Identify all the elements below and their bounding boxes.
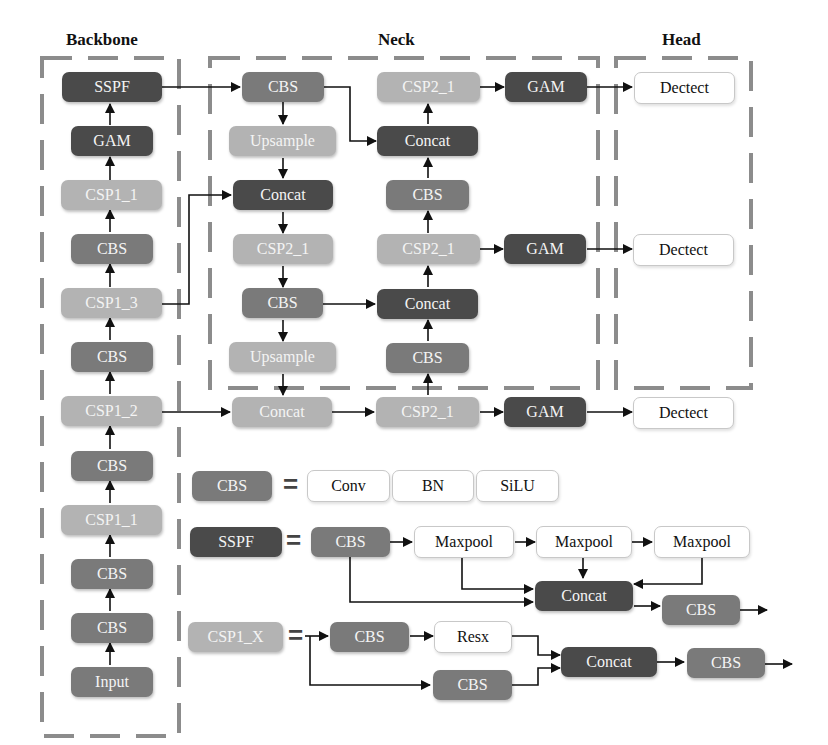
backbone-cbs-2: CBS xyxy=(71,451,153,481)
neck-cbs-right-top: CBS xyxy=(386,180,469,210)
backbone-cbs-3: CBS xyxy=(71,342,153,372)
neck-csp2-1-mid: CSP2_1 xyxy=(377,234,480,264)
head-detect-bottom: Dectect xyxy=(633,397,734,429)
legend-maxpool-1: Maxpool xyxy=(414,526,514,558)
neck-csp2-1-bottom: CSP2_1 xyxy=(376,397,479,427)
neck-cbs-top: CBS xyxy=(242,72,324,102)
legend-sspf-label: SSPF xyxy=(190,527,282,557)
backbone-title: Backbone xyxy=(66,30,138,50)
legend-cbs-label: CBS xyxy=(192,471,272,501)
neck-gam-mid: GAM xyxy=(504,234,586,264)
head-detect-top: Dectect xyxy=(634,72,735,104)
legend-maxpool-3: Maxpool xyxy=(654,526,750,558)
head-frame xyxy=(616,58,751,388)
neck-gam-top: GAM xyxy=(505,72,587,102)
legend-conv: Conv xyxy=(307,470,390,502)
backbone-csp1-1-top: CSP1_1 xyxy=(61,180,162,210)
legend-csp1x-cbs-bottom: CBS xyxy=(433,670,512,700)
neck-title: Neck xyxy=(378,30,415,50)
legend-csp1x-out-cbs: CBS xyxy=(687,648,765,678)
legend-csp1x-label: CSP1_X xyxy=(188,622,283,652)
neck-csp2-1-left: CSP2_1 xyxy=(233,234,333,264)
legend-sspf-equals: = xyxy=(286,525,301,556)
neck-csp2-1-top: CSP2_1 xyxy=(377,72,480,102)
legend-maxpool-2: Maxpool xyxy=(536,526,632,558)
backbone-csp1-2: CSP1_2 xyxy=(61,396,162,426)
legend-sspf-concat: Concat xyxy=(535,581,633,611)
legend-cbs-equals: = xyxy=(283,469,298,500)
legend-csp1x-equals: = xyxy=(288,620,303,651)
legend-resx: Resx xyxy=(434,621,512,653)
neck-upsample-bottom: Upsample xyxy=(229,342,336,372)
backbone-cbs-1: CBS xyxy=(71,559,153,589)
neck-cbs-mid: CBS xyxy=(242,288,323,318)
backbone-csp1-1: CSP1_1 xyxy=(61,505,162,535)
backbone-csp1-3: CSP1_3 xyxy=(61,288,162,318)
legend-sspf-out-cbs: CBS xyxy=(662,595,740,625)
neck-concat-top: Concat xyxy=(233,180,333,210)
backbone-cbs-4: CBS xyxy=(71,234,153,264)
neck-cbs-right-bottom: CBS xyxy=(386,343,469,373)
backbone-input: Input xyxy=(71,667,153,697)
neck-upsample-top: Upsample xyxy=(229,126,336,156)
head-title: Head xyxy=(662,30,701,50)
legend-bn: BN xyxy=(392,470,474,502)
head-detect-mid: Dectect xyxy=(633,234,734,266)
neck-concat-bottom: Concat xyxy=(232,397,332,427)
neck-gam-bottom: GAM xyxy=(504,397,586,427)
neck-concat-right-mid: Concat xyxy=(377,289,478,319)
neck-frame xyxy=(210,58,598,388)
legend-silu: SiLU xyxy=(476,470,559,502)
legend-sspf-cbs: CBS xyxy=(311,527,390,557)
neck-concat-right-top: Concat xyxy=(377,126,478,156)
legend-csp1x-concat: Concat xyxy=(561,647,657,677)
backbone-gam: GAM xyxy=(71,126,153,156)
backbone-cbs-0: CBS xyxy=(71,613,153,643)
legend-csp1x-cbs-top: CBS xyxy=(330,622,409,652)
backbone-sspf: SSPF xyxy=(62,72,162,102)
